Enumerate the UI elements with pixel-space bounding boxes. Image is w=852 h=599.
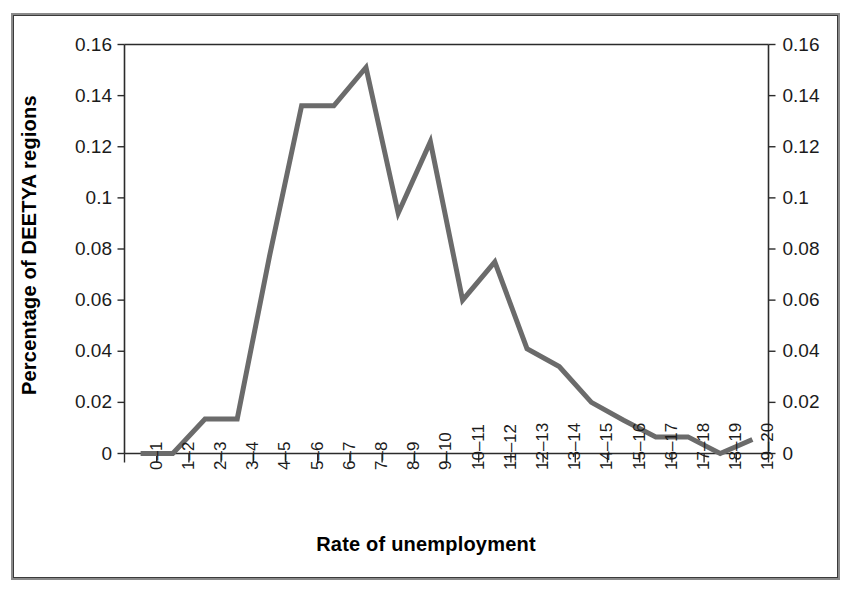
y-tick-label-right: 0.04 <box>783 341 820 360</box>
y-tick-label-right: 0 <box>783 444 794 463</box>
x-tick-label: 18–19 <box>727 422 744 469</box>
x-tick-label: 13–14 <box>566 422 583 469</box>
y-tick-label-right: 0.12 <box>783 137 820 156</box>
x-tick-label: 9–10 <box>437 432 454 470</box>
y-tick-label-right: 0.16 <box>783 35 820 54</box>
x-axis-title: Rate of unemployment <box>0 533 852 556</box>
y-tick-label-right: 0.02 <box>783 392 820 411</box>
x-tick-label: 14–15 <box>598 422 615 469</box>
y-tick-label-left: 0.08 <box>30 239 112 258</box>
y-tick-label-right: 0.06 <box>783 290 820 309</box>
x-tick-label: 16–17 <box>663 422 680 469</box>
y-tick-label-right: 0.14 <box>783 86 820 105</box>
figure-container: Percentage of DEETYA regions Rate of une… <box>0 0 852 599</box>
x-tick-label: 17–18 <box>695 422 712 469</box>
x-tick-label: 6–7 <box>341 441 358 469</box>
y-tick-label-left: 0.04 <box>30 341 112 360</box>
y-tick-label-left: 0.02 <box>30 392 112 411</box>
x-tick-label: 5–6 <box>309 441 326 469</box>
y-tick-label-right: 0.1 <box>783 188 809 207</box>
y-tick-label-right: 0.08 <box>783 239 820 258</box>
x-tick-label: 0–1 <box>148 441 165 469</box>
chart-plot-area <box>0 0 852 599</box>
x-tick-label: 7–8 <box>373 441 390 469</box>
x-tick-label: 15–16 <box>631 422 648 469</box>
x-tick-label: 8–9 <box>405 441 422 469</box>
x-tick-label: 3–4 <box>244 441 261 469</box>
data-series-line <box>141 68 753 454</box>
x-tick-label: 2–3 <box>212 441 229 469</box>
y-tick-label-left: 0.1 <box>30 188 112 207</box>
x-tick-label: 10–11 <box>470 423 487 469</box>
y-tick-label-left: 0.16 <box>30 35 112 54</box>
x-tick-label: 11–12 <box>502 423 519 469</box>
y-tick-label-left: 0 <box>30 444 112 463</box>
y-tick-label-left: 0.12 <box>30 137 112 156</box>
x-tick-label: 4–5 <box>276 441 293 469</box>
x-tick-label: 12–13 <box>534 422 551 469</box>
y-tick-label-left: 0.14 <box>30 86 112 105</box>
x-tick-label: 19–20 <box>759 422 776 469</box>
y-tick-label-left: 0.06 <box>30 290 112 309</box>
x-tick-label: 1–2 <box>180 441 197 469</box>
